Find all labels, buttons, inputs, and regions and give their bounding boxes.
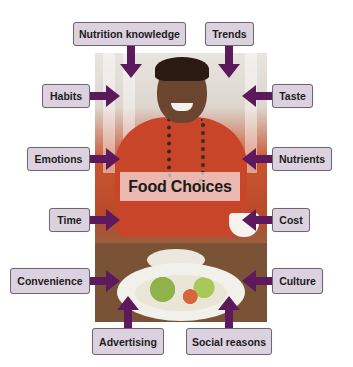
arrow-right-icon — [90, 85, 120, 107]
center-label: Food Choices — [128, 178, 231, 196]
factor-cost: Cost — [272, 208, 310, 232]
salad — [135, 275, 227, 311]
arrow-down-icon — [120, 46, 142, 78]
hair — [155, 57, 209, 81]
arrow-right-icon — [90, 270, 120, 292]
arrow-left-icon — [242, 270, 272, 292]
factor-culture: Culture — [272, 268, 323, 294]
arrow-left-icon — [242, 85, 272, 107]
arrow-left-icon — [242, 209, 272, 231]
factor-habits: Habits — [42, 84, 90, 108]
arrow-up-icon — [117, 296, 139, 328]
factor-social-reasons: Social reasons — [186, 328, 272, 355]
center-label-band: Food Choices — [120, 172, 240, 201]
factor-convenience: Convenience — [10, 268, 90, 294]
arrow-down-icon — [218, 46, 240, 78]
factor-trends: Trends — [205, 22, 254, 46]
factor-taste: Taste — [272, 84, 313, 108]
factor-emotions: Emotions — [27, 147, 90, 171]
arrow-right-icon — [90, 209, 120, 231]
factor-nutrition-knowledge: Nutrition knowledge — [73, 22, 186, 46]
factor-time: Time — [49, 208, 90, 232]
factor-advertising: Advertising — [92, 328, 164, 355]
arrow-right-icon — [90, 148, 120, 170]
arrow-left-icon — [242, 148, 272, 170]
arrow-up-icon — [218, 296, 240, 328]
factor-nutrients: Nutrients — [272, 147, 332, 171]
